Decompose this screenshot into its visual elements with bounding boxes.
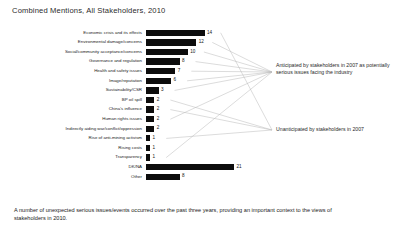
bar <box>146 49 188 55</box>
bar-category-label: China's influence <box>0 107 146 111</box>
bar-row: Economic crisis and its effects14 <box>0 28 250 38</box>
page-title: Combined Mentions, All Stakeholders, 201… <box>12 6 165 15</box>
bar-row: Rising costs1 <box>0 143 250 153</box>
bar-row: Transparency1 <box>0 153 250 163</box>
bar-value-label: 1 <box>153 146 156 151</box>
bar-value-label: 12 <box>199 40 204 45</box>
bar-category-label: Health and safety issues <box>0 69 146 73</box>
bar-row: Sustainability/CSR3 <box>0 86 250 96</box>
bar <box>146 145 150 151</box>
bar-value-label: 2 <box>157 126 160 131</box>
bar-value-label: 2 <box>157 98 160 103</box>
bar <box>146 106 154 112</box>
bar-container: 2 <box>146 95 159 105</box>
slide-canvas: Combined Mentions, All Stakeholders, 201… <box>0 0 398 232</box>
bar-container: 14 <box>146 28 212 38</box>
bar-container: 6 <box>146 76 176 86</box>
bar-value-label: 7 <box>178 69 181 74</box>
footnote-text: A number of unexpected serious issues/ev… <box>14 206 358 223</box>
bar-category-label: Sustainability/CSR <box>0 88 146 92</box>
bar-row: Rise of anti-mining activism1 <box>0 134 250 144</box>
bar-category-label: Indirectly aiding war/conflict/oppressio… <box>0 127 146 131</box>
bar-row: Social/community acceptance/concerns10 <box>0 47 250 57</box>
bar-container: 12 <box>146 38 204 48</box>
bar-container: 2 <box>146 124 159 134</box>
bar <box>146 135 150 141</box>
bar <box>146 87 159 93</box>
bar <box>146 30 205 36</box>
bar <box>146 126 154 132</box>
bar-category-label: BP oil spill <box>0 98 146 102</box>
bar-value-label: 3 <box>161 88 164 93</box>
bar-category-label: Rising costs <box>0 146 146 150</box>
bar-value-label: 8 <box>182 174 185 179</box>
bar <box>146 97 154 103</box>
bar-row: Image/reputation6 <box>0 76 250 86</box>
bar-category-label: Economic crisis and its effects <box>0 31 146 35</box>
bar-value-label: 1 <box>153 136 156 141</box>
bar-container: 3 <box>146 86 164 96</box>
bar <box>146 164 234 170</box>
bar-category-label: Social/community acceptance/concerns <box>0 50 146 54</box>
bar-category-label: Image/reputation <box>0 79 146 83</box>
bar-container: 2 <box>146 105 159 115</box>
bar-value-label: 2 <box>157 107 160 112</box>
bar-category-label: Rise of anti-mining activism <box>0 136 146 140</box>
bar-row: Environmental damage/concerns12 <box>0 38 250 48</box>
bar <box>146 174 180 180</box>
callout-anticipated: Anticipated by stakeholders in 2007 as p… <box>276 62 392 77</box>
bar-container: 1 <box>146 143 155 153</box>
bar-value-label: 21 <box>236 165 241 170</box>
bar-category-label: Human rights issues <box>0 117 146 121</box>
bar-container: 2 <box>146 114 159 124</box>
bar-row: DK/NA21 <box>0 162 250 172</box>
bar-chart: Economic crisis and its effects14Environ… <box>0 28 250 182</box>
bar-value-label: 10 <box>190 50 195 55</box>
bar-row: Human rights issues2 <box>0 114 250 124</box>
bar-row: Indirectly aiding war/conflict/oppressio… <box>0 124 250 134</box>
bar-container: 7 <box>146 66 180 76</box>
bar <box>146 58 180 64</box>
bar-container: 1 <box>146 134 155 144</box>
bar-value-label: 6 <box>174 78 177 83</box>
bar-container: 1 <box>146 153 155 163</box>
bar <box>146 39 196 45</box>
bar-value-label: 14 <box>207 31 212 36</box>
bar-row: Health and safety issues7 <box>0 66 250 76</box>
bar-row: BP oil spill2 <box>0 95 250 105</box>
bar-category-label: DK/NA <box>0 165 146 169</box>
bar-row: China's influence2 <box>0 105 250 115</box>
bar-row: Governance and regulation8 <box>0 57 250 67</box>
bar <box>146 116 154 122</box>
bar-row: Other8 <box>0 172 250 182</box>
bar <box>146 78 171 84</box>
bar-value-label: 1 <box>153 155 156 160</box>
bar-container: 10 <box>146 47 195 57</box>
bar-category-label: Governance and regulation <box>0 59 146 63</box>
bar-container: 8 <box>146 172 184 182</box>
bar-category-label: Transparency <box>0 155 146 159</box>
bar-value-label: 8 <box>182 59 185 64</box>
bar-container: 21 <box>146 162 242 172</box>
bar-container: 8 <box>146 57 184 67</box>
bar-category-label: Other <box>0 175 146 179</box>
bar <box>146 154 150 160</box>
bar <box>146 68 175 74</box>
callout-unanticipated: Unanticipated by stakeholders in 2007 <box>276 126 392 133</box>
bar-value-label: 2 <box>157 117 160 122</box>
bar-category-label: Environmental damage/concerns <box>0 40 146 44</box>
